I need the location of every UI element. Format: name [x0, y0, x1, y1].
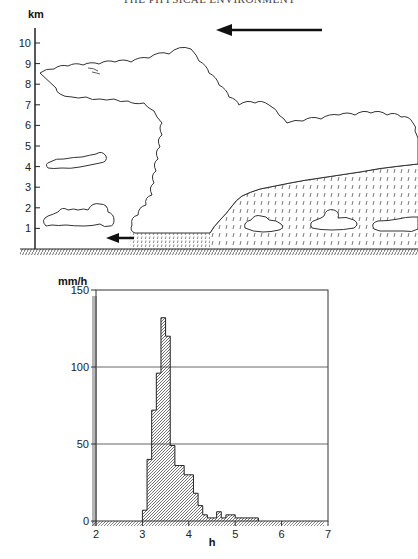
histogram-bar — [152, 410, 157, 521]
y-tick-label: 100 — [71, 361, 89, 373]
x-tick-label: 4 — [186, 528, 192, 540]
x-tick-label: 3 — [139, 528, 145, 540]
histogram-bar — [142, 510, 147, 521]
x-tick-label: 5 — [232, 528, 238, 540]
histogram-bar — [226, 515, 231, 521]
histogram-bar — [189, 475, 194, 521]
histogram-bar — [147, 459, 152, 521]
x-tick-label: 6 — [279, 528, 285, 540]
histogram-bar — [166, 336, 171, 521]
histogram-bar — [180, 466, 185, 521]
plot-frame — [96, 290, 328, 521]
histogram-bar — [231, 515, 236, 521]
histogram-bar — [184, 475, 189, 521]
y-axis-title: mm/h — [58, 275, 88, 287]
rain-rate-histogram: 050100150 234567 mm/h h — [0, 0, 418, 559]
histogram-bar — [203, 515, 208, 521]
histogram-bar — [156, 373, 161, 521]
x-axis-title: h — [209, 536, 216, 548]
histogram-bar — [217, 512, 222, 521]
y-tick-label: 50 — [77, 438, 89, 450]
x-tick-label: 2 — [93, 528, 99, 540]
histogram-bar — [198, 506, 203, 521]
x-tick-label: 7 — [325, 528, 331, 540]
y-tick-label: 0 — [83, 515, 89, 527]
histogram-bar — [161, 318, 166, 521]
histogram-bar — [175, 466, 180, 521]
histogram-bar — [193, 493, 198, 521]
histogram-bar — [170, 446, 175, 521]
x-axis-shade — [92, 521, 324, 526]
